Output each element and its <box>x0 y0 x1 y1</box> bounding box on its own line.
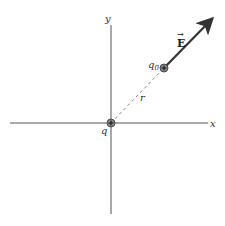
source-charge-q <box>107 119 115 127</box>
test-charge-label: q0 <box>148 59 159 72</box>
svg-text:→: → <box>177 29 184 39</box>
y-axis-label: y <box>104 13 111 24</box>
test-charge-q0 <box>160 64 168 72</box>
distance-line-r <box>111 68 164 123</box>
electric-field-diagram: y x q r q0 E → <box>0 0 225 226</box>
field-vector-arrow <box>164 20 211 68</box>
x-axis-label: x <box>210 118 216 129</box>
distance-label: r <box>140 92 146 103</box>
source-charge-label: q <box>101 125 107 136</box>
diagram-svg: y x q r q0 E → <box>0 0 225 226</box>
field-vector-label: E → <box>177 29 185 50</box>
